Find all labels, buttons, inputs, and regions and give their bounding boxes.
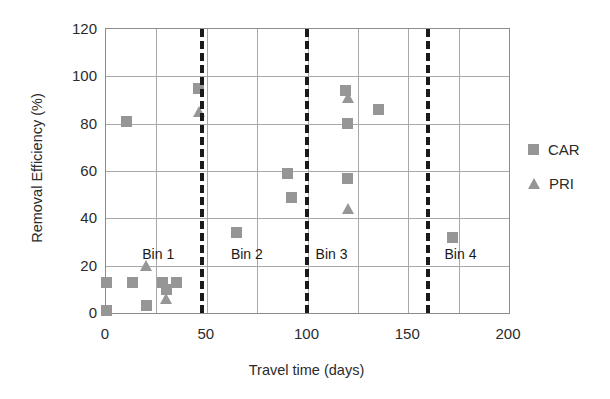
x-tick-label: 150	[382, 326, 432, 341]
chart-legend: CAR PRI	[528, 132, 606, 200]
x-tick-label: 200	[483, 326, 533, 341]
x-tick-label: 0	[80, 326, 130, 341]
x-tick-label: 100	[282, 326, 332, 341]
legend-label-pri: PRI	[549, 176, 574, 191]
x-axis-tick-labels: 050100150200	[0, 0, 610, 399]
pri-marker-icon	[528, 178, 540, 189]
x-tick-label: 50	[181, 326, 231, 341]
legend-item-pri: PRI	[528, 166, 606, 200]
y-axis-title: Removal Efficiency (%)	[29, 53, 45, 283]
legend-label-car: CAR	[548, 142, 580, 157]
scatter-chart-figure: Bin 1Bin 2Bin 3Bin 4 020406080100120 050…	[0, 0, 610, 399]
x-axis-title: Travel time (days)	[105, 362, 508, 378]
car-marker-icon	[528, 144, 539, 155]
legend-item-car: CAR	[528, 132, 606, 166]
